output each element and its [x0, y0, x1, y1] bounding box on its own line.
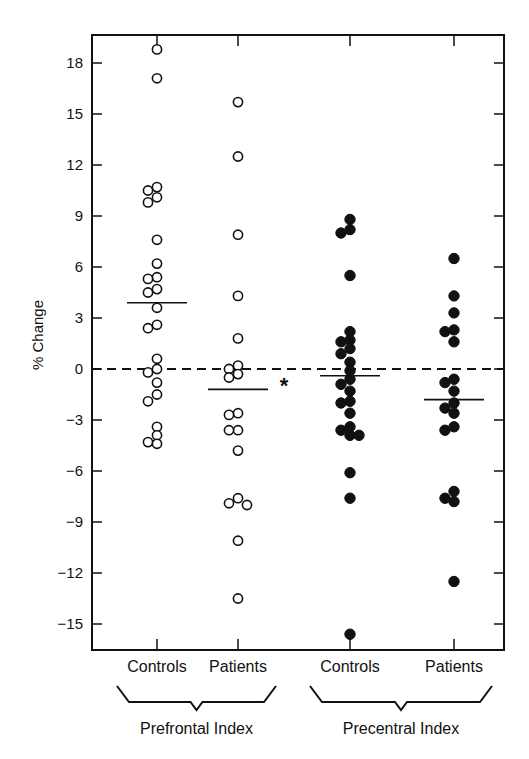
y-tick-label: −9 [66, 513, 83, 530]
filled-data-point [345, 493, 355, 503]
open-data-point [233, 409, 242, 418]
open-data-point [242, 500, 251, 509]
open-data-point [224, 410, 233, 419]
open-data-point [152, 259, 161, 268]
open-data-point [152, 364, 161, 373]
filled-data-point [336, 337, 346, 347]
x-category-label: Patients [425, 658, 483, 675]
open-data-point [233, 494, 242, 503]
group-brace [310, 686, 492, 710]
open-data-point [152, 235, 161, 244]
filled-data-point [449, 496, 459, 506]
open-data-point [152, 378, 161, 387]
group-label: Precentral Index [343, 720, 460, 737]
filled-data-point [449, 386, 459, 396]
y-tick-label: 3 [75, 309, 83, 326]
significance-asterisk: * [280, 373, 289, 398]
y-tick-label: −3 [66, 411, 83, 428]
open-data-point [143, 438, 152, 447]
filled-data-point [336, 398, 346, 408]
x-category-label: Controls [127, 658, 187, 675]
open-data-point [233, 291, 242, 300]
open-data-point [152, 354, 161, 363]
open-data-point [233, 152, 242, 161]
open-data-point [233, 446, 242, 455]
open-data-point [143, 288, 152, 297]
open-data-point [152, 183, 161, 192]
x-axis-category-labels: ControlsPatientsControlsPatients [127, 658, 483, 675]
open-data-point [152, 320, 161, 329]
open-data-point [143, 186, 152, 195]
open-data-point [152, 45, 161, 54]
filled-data-point [345, 386, 355, 396]
y-tick-label: 12 [66, 156, 83, 173]
filled-data-point [449, 576, 459, 586]
group-mean-lines [127, 303, 484, 400]
y-tick-label: 0 [75, 360, 83, 377]
y-tick-label: −6 [66, 462, 83, 479]
x-category-label: Controls [320, 658, 380, 675]
y-tick-label: −15 [58, 615, 83, 632]
open-data-point [152, 303, 161, 312]
filled-data-point [345, 270, 355, 280]
open-data-point [152, 285, 161, 294]
y-tick-label: 18 [66, 54, 83, 71]
open-data-point [233, 98, 242, 107]
filled-data-point [336, 379, 346, 389]
open-data-point [233, 594, 242, 603]
y-tick-label: 6 [75, 258, 83, 275]
filled-data-point [449, 253, 459, 263]
open-data-point [143, 397, 152, 406]
open-data-point [152, 390, 161, 399]
open-data-point [233, 230, 242, 239]
open-data-point [152, 74, 161, 83]
filled-data-point [336, 228, 346, 238]
filled-data-point [449, 408, 459, 418]
y-axis-label: % Change [29, 300, 46, 370]
group-label: Prefrontal Index [140, 720, 253, 737]
open-data-point [233, 426, 242, 435]
x-category-label: Patients [209, 658, 267, 675]
plot-frame [92, 35, 504, 650]
filled-data-point [449, 291, 459, 301]
y-tick-label: −12 [58, 564, 83, 581]
filled-data-point [449, 337, 459, 347]
open-data-point [143, 198, 152, 207]
open-data-point [224, 426, 233, 435]
filled-data-point [440, 425, 450, 435]
filled-data-point [449, 486, 459, 496]
open-data-point [233, 334, 242, 343]
open-data-point [143, 368, 152, 377]
open-data-point [233, 536, 242, 545]
axes-frame [92, 35, 504, 650]
open-data-point [152, 439, 161, 448]
y-axis-ticks: 1815129630−3−6−9−12−15 [58, 54, 504, 632]
open-data-point [143, 274, 152, 283]
open-data-point [224, 373, 233, 382]
open-data-point [143, 324, 152, 333]
filled-data-point [336, 349, 346, 359]
open-data-point [224, 499, 233, 508]
filled-data-point [449, 308, 459, 318]
y-tick-label: 15 [66, 105, 83, 122]
filled-data-point [354, 430, 364, 440]
data-points [143, 45, 459, 640]
group-brackets: Prefrontal IndexPrecentral Index [117, 686, 492, 737]
group-brace [117, 686, 276, 710]
open-data-point [152, 193, 161, 202]
filled-data-point [345, 468, 355, 478]
filled-data-point [440, 326, 450, 336]
open-data-point [233, 370, 242, 379]
dot-plot-chart: 1815129630−3−6−9−12−15 * ControlsPatient… [0, 0, 529, 759]
y-tick-label: 9 [75, 207, 83, 224]
significance-annotation: * [280, 373, 289, 398]
filled-data-point [345, 214, 355, 224]
filled-data-point [345, 629, 355, 639]
filled-data-point [345, 408, 355, 418]
chart-svg: 1815129630−3−6−9−12−15 * ControlsPatient… [0, 0, 529, 759]
open-data-point [152, 273, 161, 282]
filled-data-point [440, 377, 450, 387]
